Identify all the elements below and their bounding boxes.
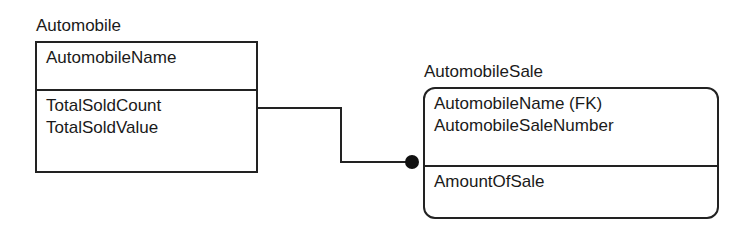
attribute: TotalSoldValue — [46, 117, 256, 139]
entity-automobilesale[interactable]: AutomobileName (FK) AutomobileSaleNumber… — [423, 87, 719, 219]
entity-title-automobile: Automobile — [36, 16, 121, 36]
key-attribute: AutomobileSaleNumber — [434, 115, 717, 137]
relationship-line — [257, 108, 406, 162]
attribute: TotalSoldCount — [46, 95, 256, 117]
non-key-attributes-section: AmountOfSale — [425, 167, 717, 193]
many-cardinality-dot-icon — [405, 155, 419, 169]
key-attribute-foreign-key: AutomobileName (FK) — [434, 93, 717, 115]
key-attribute: AutomobileName — [46, 47, 256, 69]
attribute: AmountOfSale — [434, 171, 717, 193]
entity-title-automobilesale: AutomobileSale — [424, 62, 543, 82]
key-attributes-section: AutomobileName — [37, 43, 256, 91]
key-attributes-section: AutomobileName (FK) AutomobileSaleNumber — [425, 89, 717, 167]
non-key-attributes-section: TotalSoldCount TotalSoldValue — [37, 91, 256, 139]
entity-automobile[interactable]: AutomobileName TotalSoldCount TotalSoldV… — [35, 41, 258, 173]
